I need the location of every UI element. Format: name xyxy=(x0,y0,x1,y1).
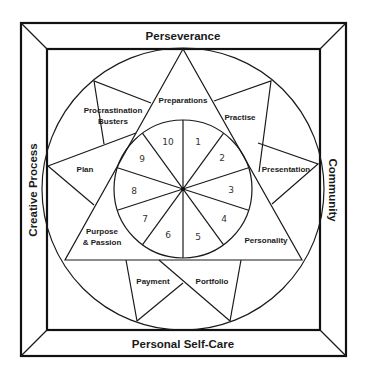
label-creative-process: Creative Process xyxy=(27,143,39,236)
label-personal-self-care: Personal Self-Care xyxy=(132,338,234,350)
segment-10: 10 xyxy=(162,137,174,147)
frame-corner-tr xyxy=(320,23,346,49)
wheel-hub xyxy=(181,187,185,191)
label-personality: Personality xyxy=(244,236,288,245)
label-portfolio: Portfolio xyxy=(196,277,229,286)
label-purpose: Purpose xyxy=(86,227,119,236)
label-presentation: Presentation xyxy=(262,165,311,174)
label-payment: Payment xyxy=(136,277,170,286)
segment-3: 3 xyxy=(228,185,234,195)
label-passion: & Passion xyxy=(83,238,122,247)
frame-corner-br xyxy=(320,330,346,356)
star-line-payment-diag xyxy=(137,283,183,321)
segment-2: 2 xyxy=(219,153,225,163)
label-plan: Plan xyxy=(77,165,94,174)
segment-5: 5 xyxy=(195,232,201,242)
label-busters: Busters xyxy=(98,117,128,126)
label-practise: Practise xyxy=(224,113,256,122)
segment-1: 1 xyxy=(195,137,201,147)
segment-8: 8 xyxy=(131,186,137,196)
segment-7: 7 xyxy=(142,214,148,224)
star-line-portfolio-diag xyxy=(159,260,230,321)
star-line-portfolio-right xyxy=(230,260,241,321)
label-community: Community xyxy=(327,158,339,222)
creative-framework-diagram: Perseverance Personal Self-Care Creative… xyxy=(0,0,369,378)
label-procrastination: Procrastination xyxy=(84,106,143,115)
segment-6: 6 xyxy=(165,230,171,240)
star-line-plan-top xyxy=(48,133,136,166)
segment-9: 9 xyxy=(139,154,145,164)
frame-corner-tl xyxy=(21,23,47,49)
label-preparations: Preparations xyxy=(159,96,208,105)
star-line-payment-left xyxy=(126,260,137,321)
frame-corner-bl xyxy=(21,330,47,356)
segment-4: 4 xyxy=(221,214,227,224)
label-perseverance: Perseverance xyxy=(146,30,221,42)
